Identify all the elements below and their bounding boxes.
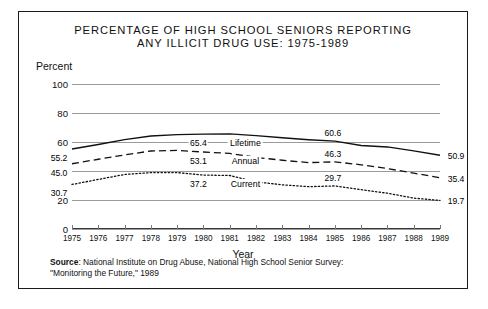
x-axis-tick-label: 1984 bbox=[299, 234, 317, 243]
x-axis-tick-label: 1978 bbox=[142, 234, 160, 243]
x-axis-tick-label: 1986 bbox=[352, 234, 370, 243]
chart-title-line-2: ANY ILLICIT DRUG USE: 1975-1989 bbox=[19, 37, 467, 50]
value-label-annual-start: 45.0 bbox=[50, 168, 69, 178]
x-axis-tick-label: 1980 bbox=[194, 234, 212, 243]
x-axis-tick-label: 1983 bbox=[273, 234, 291, 243]
y-axis-tick-label: 100 bbox=[52, 79, 68, 90]
source-line-1-rest: : National Institute on Drug Abuse, Nati… bbox=[78, 257, 343, 267]
chart-figure-frame: PERCENTAGE OF HIGH SCHOOL SENIORS REPORT… bbox=[18, 11, 468, 289]
value-label-annual-late: 46.3 bbox=[323, 149, 342, 159]
x-axis-tick-label: 1989 bbox=[431, 234, 449, 243]
x-axis-tick-label: 1976 bbox=[89, 234, 107, 243]
x-axis-tick-label: 1977 bbox=[115, 234, 133, 243]
value-label-lifetime-late: 60.6 bbox=[323, 128, 342, 138]
value-label-current-end: 19.7 bbox=[447, 196, 466, 206]
value-label-annual-mid: 53.1 bbox=[189, 156, 208, 166]
x-axis-tick-label: 1975 bbox=[63, 234, 81, 243]
y-axis-tick-label: 0 bbox=[63, 224, 68, 235]
plot-area: 020406080100 197519761977197819791980198… bbox=[72, 84, 440, 229]
source-line-1: Source: National Institute on Drug Abuse… bbox=[50, 257, 440, 268]
x-axis-tick bbox=[440, 225, 441, 229]
value-label-current-mid: 37.2 bbox=[189, 179, 208, 189]
x-axis-tick-label: 1985 bbox=[326, 234, 344, 243]
series-name-current: Current bbox=[229, 179, 262, 189]
x-axis-tick-label: 1979 bbox=[168, 234, 186, 243]
x-axis-tick-label: 1981 bbox=[221, 234, 239, 243]
value-label-lifetime-mid: 65.4 bbox=[189, 138, 208, 148]
series-name-lifetime: Lifetime bbox=[228, 138, 263, 148]
series-name-annual: Annual bbox=[230, 156, 261, 166]
source-label: Source bbox=[50, 257, 78, 267]
chart-title-line-1: PERCENTAGE OF HIGH SCHOOL SENIORS REPORT… bbox=[19, 24, 467, 37]
x-axis-tick-label: 1988 bbox=[405, 234, 423, 243]
gridline bbox=[72, 229, 440, 230]
value-label-current-late: 29.7 bbox=[323, 173, 342, 183]
value-label-lifetime-end: 50.9 bbox=[447, 151, 466, 161]
y-axis-title: Percent bbox=[36, 60, 72, 72]
value-label-current-start: 30.7 bbox=[50, 188, 69, 198]
y-axis-tick-label: 60 bbox=[57, 137, 68, 148]
source-note: Source: National Institute on Drug Abuse… bbox=[50, 257, 440, 279]
x-axis-tick-label: 1982 bbox=[247, 234, 265, 243]
value-label-lifetime-start: 55.2 bbox=[50, 153, 69, 163]
x-axis-tick-label: 1987 bbox=[378, 234, 396, 243]
y-axis-tick-label: 80 bbox=[57, 108, 68, 119]
chart-title: PERCENTAGE OF HIGH SCHOOL SENIORS REPORT… bbox=[19, 24, 467, 50]
value-label-annual-end: 35.4 bbox=[447, 174, 466, 184]
source-line-2: "Monitoring the Future," 1989 bbox=[50, 268, 440, 279]
